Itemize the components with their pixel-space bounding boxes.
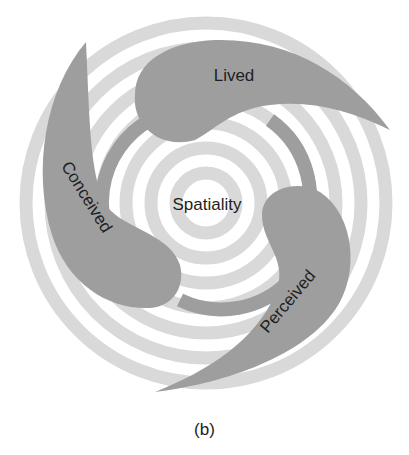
lived-label: Lived [214,66,255,85]
spatiality-label: Spatiality [173,195,242,214]
figure-caption: (b) [0,420,409,440]
lived-segment [135,40,390,142]
spatial-triad-diagram: Lived Spatiality Conceived Perceived [0,0,409,455]
